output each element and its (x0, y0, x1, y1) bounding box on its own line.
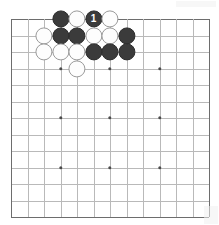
grid-line-vertical (176, 19, 177, 217)
stone-white[interactable] (85, 27, 102, 44)
stone-black[interactable] (68, 27, 85, 44)
stone-white[interactable] (68, 43, 85, 60)
star-point (158, 116, 161, 119)
star-point (108, 116, 111, 119)
stone-black[interactable] (118, 27, 135, 44)
stone-white[interactable] (52, 43, 69, 60)
move-number-label: 1 (86, 11, 101, 26)
star-point (59, 166, 62, 169)
stone-white[interactable] (68, 60, 85, 77)
scan-artifact-bottom-right (204, 206, 218, 224)
board-edge-vertical (209, 19, 210, 217)
stone-black-move-1[interactable]: 1 (85, 10, 102, 27)
star-point (59, 67, 62, 70)
stone-black[interactable] (85, 43, 102, 60)
stone-white[interactable] (35, 43, 52, 60)
board-edge-horizontal (11, 217, 209, 218)
go-board[interactable]: 1 (0, 0, 219, 225)
stone-white[interactable] (68, 10, 85, 27)
star-point (108, 166, 111, 169)
scan-artifact-top-right (176, 1, 216, 7)
star-point (108, 67, 111, 70)
stone-black[interactable] (118, 43, 135, 60)
grid-line-vertical (193, 19, 194, 217)
star-point (158, 166, 161, 169)
stone-black[interactable] (52, 10, 69, 27)
star-point (59, 116, 62, 119)
board-edge-vertical (11, 19, 12, 217)
star-point (158, 67, 161, 70)
stone-black[interactable] (52, 27, 69, 44)
stone-white[interactable] (101, 27, 118, 44)
stone-white[interactable] (35, 27, 52, 44)
stone-white[interactable] (101, 10, 118, 27)
grid-line-vertical (143, 19, 144, 217)
go-board-diagram: 1 (0, 0, 219, 225)
stone-black[interactable] (101, 43, 118, 60)
grid-line-vertical (28, 19, 29, 217)
